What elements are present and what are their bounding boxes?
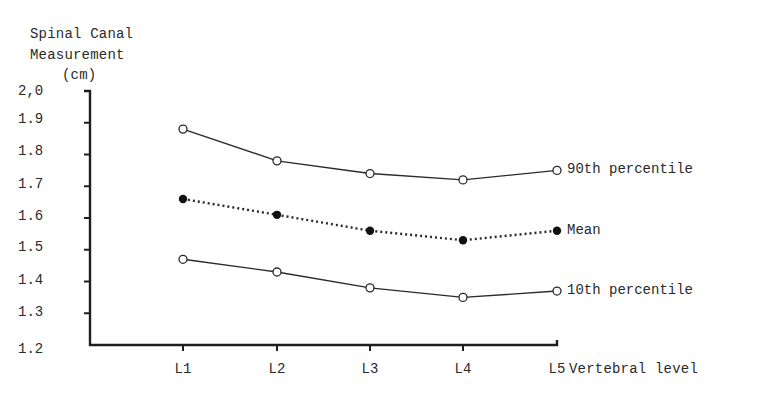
data-point-marker [459, 176, 467, 184]
data-point-marker [366, 227, 374, 235]
x-tick-label: L4 [455, 361, 472, 377]
line-chart [0, 0, 760, 406]
data-point-marker [366, 170, 374, 178]
series-label-90th: 90th percentile [567, 161, 693, 177]
data-point-marker [179, 255, 187, 263]
data-point-marker [179, 195, 187, 203]
x-tick-label: L2 [269, 361, 286, 377]
chart-axes [84, 91, 557, 345]
data-point-marker [459, 293, 467, 301]
x-tick-label: L5 [549, 361, 566, 377]
data-point-marker [273, 268, 281, 276]
data-point-marker [366, 284, 374, 292]
data-point-marker [553, 287, 561, 295]
data-point-marker [553, 227, 561, 235]
data-series [179, 125, 561, 301]
series-label-10th: 10th percentile [567, 282, 693, 298]
axis-ticks [84, 123, 463, 351]
x-axis-title: Vertebral level [569, 361, 698, 377]
data-point-marker [459, 236, 467, 244]
series-label-mean: Mean [567, 222, 601, 238]
data-point-marker [273, 211, 281, 219]
data-point-marker [179, 125, 187, 133]
x-tick-label: L1 [175, 361, 192, 377]
data-point-marker [553, 166, 561, 174]
x-tick-label: L3 [362, 361, 379, 377]
data-point-marker [273, 157, 281, 165]
